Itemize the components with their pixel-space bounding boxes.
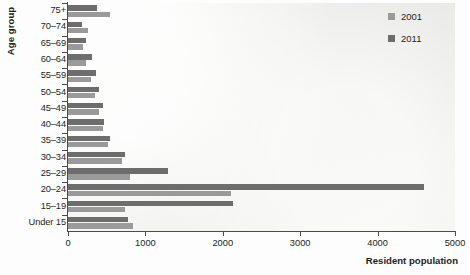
- y-axis-tick: [62, 117, 67, 118]
- y-axis-tick-label: Under 15: [12, 217, 66, 227]
- bar-2011: [68, 184, 424, 189]
- bar-2011: [68, 168, 168, 173]
- bar-2001: [68, 142, 108, 147]
- y-axis-tick-labels: 75+70–7465–6960–6455–5950–5445–4940–4435…: [12, 3, 66, 231]
- x-axis-title: Resident population: [248, 255, 458, 266]
- y-axis-tick-label: 70–74: [12, 21, 66, 31]
- legend: 20012011: [388, 9, 422, 53]
- bar-2011: [68, 136, 110, 141]
- y-axis-tick-label: 35–39: [12, 135, 66, 145]
- bar-2001: [68, 77, 91, 82]
- bar-2011: [68, 152, 125, 157]
- bar-2001: [68, 223, 133, 228]
- y-axis-tick-label: 50–54: [12, 87, 66, 97]
- legend-swatch-icon: [388, 13, 395, 20]
- bar-2001: [68, 60, 86, 65]
- bar-2001: [68, 126, 103, 131]
- y-axis-tick: [62, 215, 67, 216]
- x-axis-tick-label: 0: [46, 238, 90, 248]
- x-axis-tick-label: 2000: [201, 238, 245, 248]
- bar-2001: [68, 93, 95, 98]
- bar-2011: [68, 54, 92, 59]
- bar-2001: [68, 158, 122, 163]
- y-axis-tick: [62, 36, 67, 37]
- legend-item: 2001: [388, 9, 422, 24]
- bar-2011: [68, 217, 128, 222]
- x-axis-line: [68, 231, 456, 232]
- y-axis-tick-label: 15–19: [12, 201, 66, 211]
- bar-2001: [68, 207, 125, 212]
- bar-2011: [68, 22, 82, 27]
- y-axis-tick: [62, 3, 67, 4]
- bar-2011: [68, 119, 104, 124]
- legend-item: 2011: [388, 31, 422, 46]
- y-axis-tick-label: 20–24: [12, 184, 66, 194]
- x-axis-tick: [145, 232, 146, 236]
- bar-2011: [68, 103, 103, 108]
- y-axis-tick-label: 65–69: [12, 38, 66, 48]
- y-axis-tick: [62, 166, 67, 167]
- y-axis-tick-label: 25–29: [12, 168, 66, 178]
- y-axis-tick: [62, 198, 67, 199]
- legend-swatch-icon: [388, 35, 395, 42]
- x-axis-tick-label: 4000: [356, 238, 400, 248]
- legend-label: 2011: [401, 33, 421, 44]
- y-axis-tick: [62, 182, 67, 183]
- x-axis-tick-label: 1000: [123, 238, 167, 248]
- bar-2011: [68, 201, 233, 206]
- y-axis-tick: [62, 68, 67, 69]
- bar-2001: [68, 28, 88, 33]
- x-axis-tick: [223, 232, 224, 236]
- x-axis-tick: [455, 232, 456, 236]
- y-axis-tick: [62, 52, 67, 53]
- y-axis-line: [67, 2, 68, 232]
- x-axis-tick: [378, 232, 379, 236]
- y-axis-tick: [62, 19, 67, 20]
- y-axis-tick-label: 75+: [12, 5, 66, 15]
- bar-2001: [68, 109, 99, 114]
- y-axis-tick: [62, 133, 67, 134]
- x-axis-tick-label: 5000: [433, 238, 470, 248]
- y-axis-tick: [62, 84, 67, 85]
- x-axis-tick-label: 3000: [278, 238, 322, 248]
- y-axis-tick-label: 55–59: [12, 70, 66, 80]
- y-axis-tick-label: 30–34: [12, 152, 66, 162]
- bar-2011: [68, 70, 96, 75]
- bar-2011: [68, 87, 99, 92]
- x-axis-tick: [300, 232, 301, 236]
- y-axis-tick-label: 60–64: [12, 54, 66, 64]
- y-axis-tick: [62, 150, 67, 151]
- bar-2001: [68, 12, 110, 17]
- bar-2001: [68, 191, 231, 196]
- legend-label: 2001: [401, 11, 422, 22]
- x-axis-tick: [68, 232, 69, 236]
- bar-2001: [68, 44, 83, 49]
- bar-2011: [68, 5, 97, 10]
- y-axis-tick: [62, 101, 67, 102]
- y-axis-tick-label: 45–49: [12, 103, 66, 113]
- bar-2001: [68, 174, 130, 179]
- y-axis-tick-label: 40–44: [12, 119, 66, 129]
- bar-2011: [68, 38, 86, 43]
